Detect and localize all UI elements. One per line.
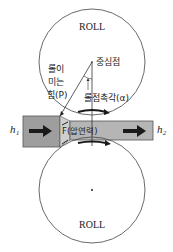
top-roll-label: ROLL <box>79 21 105 32</box>
center-point-label: 중심점 <box>96 57 120 68</box>
bottom-rotation-arrowhead-icon <box>105 140 111 146</box>
roll-force-label-2: 미는 <box>48 77 64 88</box>
force-p-arrowhead-icon <box>60 111 64 116</box>
bottom-roll-center-dot <box>91 189 93 191</box>
exit-flow-arrow-shaft <box>123 129 137 133</box>
entry-flow-arrow-shaft <box>29 129 43 133</box>
contact-angle-label: 롤접촉각(α) <box>84 93 129 104</box>
h2-label: h₂ <box>157 124 166 135</box>
contact-radius-line <box>60 62 92 116</box>
roll-force-label-1: 롤이 <box>48 64 64 75</box>
bottom-roll-label: ROLL <box>79 219 105 230</box>
top-roll-center-dot <box>91 61 93 63</box>
pressure-label: F(압연력) <box>62 126 98 137</box>
h1-label: h₁ <box>10 124 19 135</box>
roll-force-label-3: 힘(P) <box>47 90 67 101</box>
